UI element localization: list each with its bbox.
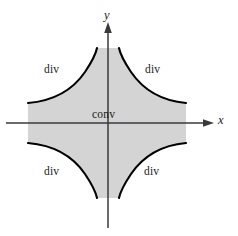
region-label-conv-center: conv — [92, 108, 115, 120]
region-label-div-bottom-left: div — [44, 165, 59, 177]
x-axis-label: x — [218, 113, 224, 128]
region-label-div-top-left: div — [44, 63, 59, 75]
figure-container: div div div div conv y x — [0, 0, 238, 236]
y-axis-arrowhead — [104, 22, 112, 33]
region-diagram-svg — [0, 0, 238, 236]
region-label-div-top-right: div — [145, 63, 160, 75]
x-axis-arrowhead — [203, 119, 214, 127]
y-axis-label: y — [104, 8, 110, 23]
region-label-div-bottom-right: div — [144, 165, 159, 177]
